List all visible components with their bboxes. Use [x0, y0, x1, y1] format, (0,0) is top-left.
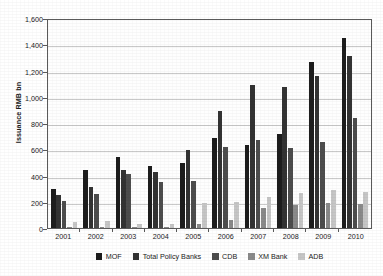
x-tick-label: 2007 — [242, 232, 275, 241]
bar — [89, 187, 94, 228]
bar — [347, 56, 352, 228]
bar — [353, 118, 358, 228]
x-tick-label: 2008 — [275, 232, 308, 241]
bar — [299, 193, 304, 228]
bar — [94, 194, 99, 228]
bar — [73, 222, 78, 228]
y-tick-label: 600 — [0, 146, 47, 155]
bar — [320, 142, 325, 228]
bar — [212, 138, 217, 228]
x-tick-label: 2001 — [47, 232, 80, 241]
bar — [105, 221, 110, 228]
x-tick-label: 2009 — [307, 232, 340, 241]
bar — [234, 202, 239, 228]
bar-groups — [48, 20, 371, 228]
bar — [245, 145, 250, 228]
legend-item[interactable]: CDB — [212, 252, 237, 261]
bar-group — [177, 20, 209, 228]
legend-swatch-icon — [298, 253, 305, 260]
bar — [218, 111, 223, 228]
bar — [202, 203, 207, 228]
bar — [309, 62, 314, 228]
legend-label: MOF — [106, 252, 122, 261]
bar-group — [306, 20, 338, 228]
bar — [116, 157, 121, 228]
plot-area — [47, 19, 372, 229]
y-tick-label: 1,000 — [0, 93, 47, 102]
x-tick-label: 2003 — [112, 232, 145, 241]
bar — [315, 76, 320, 228]
legend-item[interactable]: Total Policy Banks — [133, 252, 201, 261]
bar — [358, 204, 363, 228]
bar — [191, 181, 196, 228]
bar — [293, 205, 298, 228]
bar — [363, 192, 368, 228]
legend-item[interactable]: XM Bank — [248, 252, 287, 261]
bar — [56, 195, 61, 228]
y-tick-mark — [43, 229, 47, 230]
y-tick-label: 1,400 — [0, 41, 47, 50]
x-tick-label: 2004 — [145, 232, 178, 241]
legend-swatch-icon — [96, 253, 103, 260]
legend-swatch-icon — [212, 253, 219, 260]
bar — [277, 134, 282, 228]
legend-swatch-icon — [133, 253, 140, 260]
legend-item[interactable]: MOF — [96, 252, 122, 261]
bar — [100, 227, 105, 228]
bar — [186, 150, 191, 228]
bar — [267, 197, 272, 229]
bar — [62, 201, 67, 228]
bar — [342, 38, 347, 228]
bar-group — [339, 20, 371, 228]
legend-label: XM Bank — [258, 252, 287, 261]
legend-label: Total Policy Banks — [143, 252, 201, 261]
x-axis-labels: 2001200220032004200520062007200820092010 — [47, 232, 372, 241]
bar-group — [242, 20, 274, 228]
bar — [261, 208, 266, 228]
bar-group — [80, 20, 112, 228]
bar — [197, 224, 202, 228]
y-tick-label: 1,600 — [0, 15, 47, 24]
issuance-bar-chart: Issuance RMB bn 1,6001,4001,2001,0008006… — [0, 0, 383, 276]
bar — [132, 227, 137, 228]
bar-group — [209, 20, 241, 228]
y-tick-label: 200 — [0, 198, 47, 207]
bar — [164, 227, 169, 228]
bar — [256, 140, 261, 228]
bar-group — [274, 20, 306, 228]
bar-group — [145, 20, 177, 228]
bar — [326, 203, 331, 228]
bar — [180, 163, 185, 228]
bar — [159, 182, 164, 228]
bar — [67, 227, 72, 228]
bar — [288, 148, 293, 228]
y-tick-label: 400 — [0, 172, 47, 181]
bar — [170, 224, 175, 228]
bar — [83, 170, 88, 228]
bar — [282, 87, 287, 228]
bar — [121, 170, 126, 228]
y-tick-label: 1,200 — [0, 67, 47, 76]
y-tick-label: 0 — [0, 225, 47, 234]
bar — [51, 189, 56, 228]
bar — [331, 190, 336, 228]
y-tick-label: 800 — [0, 120, 47, 129]
bar — [137, 224, 142, 228]
legend-label: ADB — [308, 252, 323, 261]
bar — [126, 174, 131, 228]
x-tick-label: 2002 — [80, 232, 113, 241]
chart-legend: MOFTotal Policy BanksCDBXM BankADB — [47, 252, 372, 261]
legend-label: CDB — [222, 252, 237, 261]
bar — [148, 166, 153, 228]
bar — [223, 147, 228, 228]
legend-swatch-icon — [248, 253, 255, 260]
legend-item[interactable]: ADB — [298, 252, 323, 261]
x-tick-label: 2010 — [340, 232, 373, 241]
bar-group — [113, 20, 145, 228]
bar — [250, 85, 255, 228]
x-tick-label: 2006 — [210, 232, 243, 241]
bar — [153, 172, 158, 228]
x-tick-label: 2005 — [177, 232, 210, 241]
bar — [229, 220, 234, 228]
bar-group — [48, 20, 80, 228]
